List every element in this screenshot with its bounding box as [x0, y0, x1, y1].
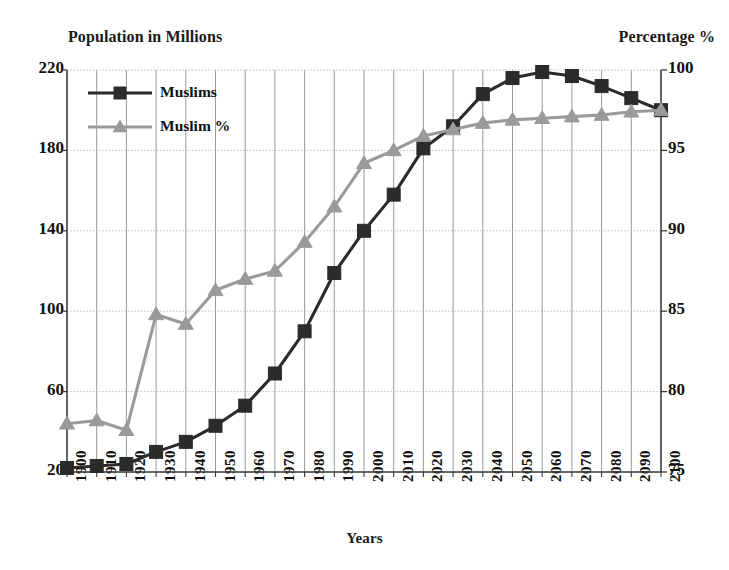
legend-label-muslim-percent: Muslim % — [160, 117, 230, 135]
legend-markers — [88, 87, 152, 133]
plot-area — [0, 0, 729, 570]
chart-container: Population in Millions Percentage % Year… — [0, 0, 729, 570]
gridlines — [67, 70, 661, 472]
legend-label-muslims: Muslims — [160, 83, 217, 101]
